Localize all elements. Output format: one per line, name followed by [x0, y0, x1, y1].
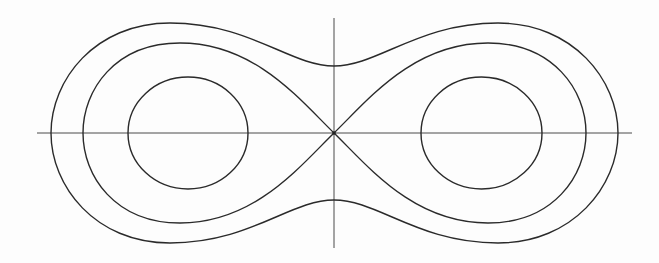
- origin-point: [332, 131, 336, 135]
- cassini-ovals-diagram: [0, 0, 659, 263]
- diagram-svg: [0, 0, 659, 263]
